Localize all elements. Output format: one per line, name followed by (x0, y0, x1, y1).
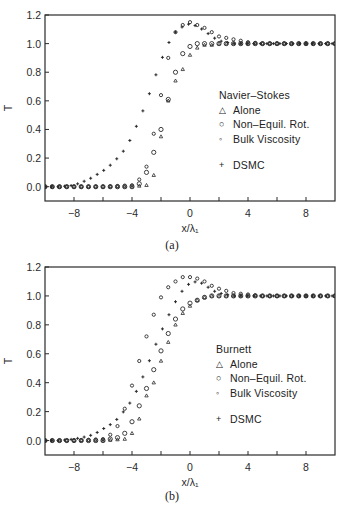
x-tick-label: −8 (68, 461, 80, 473)
x-tick-label: 8 (303, 461, 309, 473)
x-tick-label: −4 (126, 461, 138, 473)
x-tick-label: 8 (303, 207, 309, 219)
legend-label: Alone (230, 357, 258, 372)
triangle-icon: △ (219, 103, 233, 118)
plus-icon: + (216, 412, 230, 427)
caption-b: (b) (0, 489, 344, 504)
plus-icon: + (219, 158, 233, 173)
y-tick-label: 1.0 (26, 38, 41, 50)
y-tick-label: 1.0 (26, 290, 41, 302)
x-tick-label: 0 (187, 461, 193, 473)
legend-label: DSMC (233, 158, 265, 173)
y-tick-label: 1.2 (26, 261, 41, 273)
y-tick-label: 0.0 (26, 435, 41, 447)
small-circle-icon: ◦ (219, 132, 233, 147)
large-circle-icon: ○ (216, 371, 230, 386)
legend-label: Non–Equil. Rot. (230, 371, 307, 386)
y-tick-label: 0.6 (26, 348, 41, 360)
legend-label: Bulk Viscosity (230, 386, 297, 401)
legend-title: Navier–Stokes (219, 88, 310, 103)
y-tick-label: 0.0 (26, 181, 41, 193)
x-axis-label: x/λ₁ (182, 222, 199, 234)
x-tick-label: 0 (187, 207, 193, 219)
legend-label: Alone (233, 103, 261, 118)
legend-b: Burnett △Alone ○Non–Equil. Rot. ◦Bulk Vi… (216, 342, 307, 427)
legend-label: Non–Equil. Rot. (233, 117, 310, 132)
y-tick-label: 1.2 (26, 9, 41, 21)
legend-label: DSMC (230, 412, 262, 427)
legend-title: Burnett (216, 342, 307, 357)
y-tick-label: 0.6 (26, 95, 41, 107)
y-axis-label: T (2, 357, 14, 364)
y-tick-label: 0.8 (26, 66, 41, 78)
triangle-icon: △ (216, 357, 230, 372)
y-tick-label: 0.2 (26, 152, 41, 164)
x-tick-label: −4 (126, 207, 138, 219)
x-tick-label: −8 (68, 207, 80, 219)
small-circle-icon: ◦ (216, 386, 230, 401)
y-tick-label: 0.2 (26, 406, 41, 418)
legend-label: Bulk Viscosity (233, 132, 300, 147)
legend-a: Navier–Stokes △Alone ○Non–Equil. Rot. ◦B… (219, 88, 310, 173)
y-axis-label: T (2, 104, 14, 111)
y-tick-label: 0.4 (26, 377, 41, 389)
x-tick-label: 4 (245, 207, 251, 219)
y-tick-label: 0.8 (26, 319, 41, 331)
y-tick-label: 0.4 (26, 123, 41, 135)
figure-panel-a: 0.00.20.40.60.81.01.2−8−4048x/λ₁T Navier… (0, 0, 344, 257)
x-axis-label: x/λ₁ (182, 476, 199, 488)
x-tick-label: 4 (245, 461, 251, 473)
caption-a: (a) (0, 238, 344, 253)
large-circle-icon: ○ (219, 117, 233, 132)
figure-panel-b: 0.00.20.40.60.81.01.2−8−4048x/λ₁T Burnet… (0, 257, 344, 514)
